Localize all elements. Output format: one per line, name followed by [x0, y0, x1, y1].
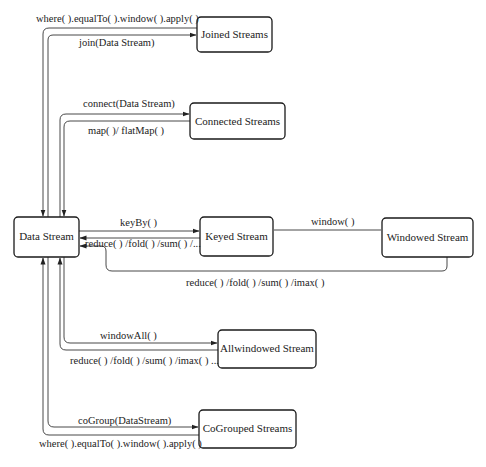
node-label: Data Stream	[19, 230, 74, 242]
node-allwindowed-stream: Allwindowed Stream	[218, 330, 316, 368]
edge-cogrouped-to-datastream	[43, 258, 199, 435]
node-label: Windowed Stream	[387, 231, 469, 243]
edge-label-allwindowed-reduce: reduce( ) /fold( ) /sum( ) /imax( ) ...	[70, 355, 219, 367]
node-windowed-stream: Windowed Stream	[382, 218, 473, 257]
edge-label-cogroup-out: where( ).equalTo( ).window( ).apply( )	[39, 438, 202, 450]
node-joined-streams: Joined Streams	[197, 17, 272, 52]
edge-datastream-to-cogrouped	[48, 257, 198, 427]
node-connected-streams: Connected Streams	[190, 103, 285, 139]
stream-transformation-diagram: Joined Streams Connected Streams Data St…	[0, 0, 486, 467]
edge-label-map-flatmap: map( )/ flatMap( )	[88, 125, 165, 137]
edge-label-join: join(Data Stream)	[78, 37, 155, 49]
edge-label-windowed-reduce: reduce( ) /fold( ) /sum( ) /imax( )	[186, 277, 325, 289]
edge-label-windowall: windowAll( )	[100, 330, 157, 342]
node-cogrouped-streams: CoGrouped Streams	[199, 410, 296, 448]
edge-label-cogroup: coGroup(DataStream)	[78, 415, 172, 427]
edge-label-keyed-reduce: reduce( ) /fold( ) /sum( ) /...	[85, 238, 201, 250]
node-data-stream: Data Stream	[14, 217, 79, 257]
node-label: Connected Streams	[195, 115, 280, 127]
node-label: Keyed Stream	[205, 230, 268, 242]
node-keyed-stream: Keyed Stream	[200, 217, 273, 256]
edge-label-keyby: keyBy( )	[120, 217, 158, 229]
edge-label-connect: connect(Data Stream)	[83, 98, 175, 110]
edge-label-joined-out: where( ).equalTo( ).window( ).apply( )	[36, 13, 199, 25]
edge-label-window: window( )	[311, 216, 355, 228]
node-label: Allwindowed Stream	[220, 342, 314, 354]
node-label: Joined Streams	[201, 28, 268, 40]
node-label: CoGrouped Streams	[203, 422, 293, 434]
